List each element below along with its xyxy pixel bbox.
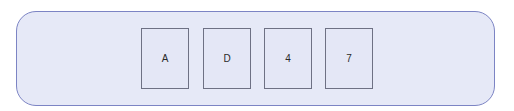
card-label: A [162,54,169,64]
card-label: 7 [346,54,352,64]
card-label: 4 [285,54,291,64]
card-a[interactable]: A [141,28,189,89]
card-label: D [223,54,230,64]
card-d[interactable]: D [203,28,251,89]
card-4[interactable]: 4 [264,28,312,89]
card-tray [16,11,495,106]
card-7[interactable]: 7 [325,28,373,89]
